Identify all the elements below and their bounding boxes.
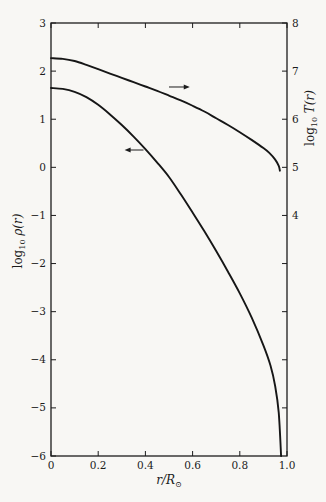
y-left-tick-label: 2 (39, 65, 46, 77)
x-tick-label: 0.4 (137, 459, 154, 471)
right-axis-title-log: log (303, 127, 317, 146)
y-left-tick-label: −6 (31, 450, 47, 462)
x-tick-label: 0.8 (231, 459, 248, 471)
x-tick-label: 1.0 (279, 459, 296, 471)
y-right-tick-label: 7 (292, 65, 299, 77)
right-axis-title-sub: 10 (310, 117, 319, 127)
left-axis-title-log-density: log10 ρ(r) (11, 214, 27, 269)
y-left-tick-label: −1 (31, 209, 46, 221)
y-left-tick-label: −2 (31, 257, 46, 269)
temperature-curve (51, 58, 280, 171)
y-left-tick-label: −3 (31, 305, 46, 317)
temperature-axis-arrow-head (184, 85, 190, 90)
x-tick-label: 0.6 (184, 459, 201, 471)
right-axis-title-var: T(r) (303, 90, 317, 117)
y-left-tick-label: 0 (39, 161, 46, 173)
y-right-tick-label: 8 (292, 17, 299, 29)
y-right-tick-label: 4 (292, 209, 299, 221)
y-right-tick-label: 5 (292, 161, 299, 173)
density-axis-arrow-head (125, 148, 131, 153)
x-tick-label: 0 (48, 459, 55, 471)
y-left-tick-label: 1 (39, 113, 46, 125)
chart-canvas: 00.20.40.60.81.03210−1−2−3−4−5−687654 (0, 0, 326, 502)
x-tick-label: 0.2 (90, 459, 107, 471)
y-right-tick-label: 6 (292, 113, 299, 125)
solar-interior-profile-figure: 00.20.40.60.81.03210−1−2−3−4−5−687654 lo… (0, 0, 326, 502)
y-left-tick-label: −4 (31, 353, 47, 365)
y-left-tick-label: −5 (31, 401, 46, 413)
y-left-tick-label: 3 (39, 17, 46, 29)
x-axis-title-radius-fraction: r/R⊙ (156, 473, 182, 489)
left-axis-title-log: log (11, 250, 25, 269)
left-axis-title-var: ρ(r) (11, 214, 25, 240)
density-curve (51, 88, 281, 456)
right-axis-title-log-temperature: log10 T(r) (303, 90, 319, 146)
left-axis-title-sub: 10 (18, 240, 27, 250)
x-axis-title-sub: ⊙ (175, 480, 182, 489)
x-axis-title-var: r/R (156, 473, 175, 487)
plot-frame (51, 23, 287, 456)
